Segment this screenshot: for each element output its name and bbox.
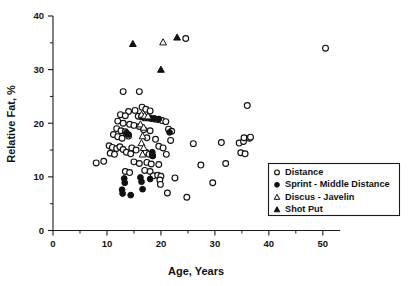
data-point (210, 180, 216, 186)
data-point (198, 162, 204, 168)
data-point (156, 162, 162, 168)
data-point (132, 107, 138, 113)
series-shot-put (129, 34, 180, 72)
x-axis-ticks (53, 231, 323, 236)
data-point (184, 194, 190, 200)
data-point (160, 145, 166, 151)
data-point (164, 190, 170, 196)
data-point (93, 160, 99, 166)
data-point (147, 176, 153, 182)
data-point (140, 186, 146, 192)
data-point (128, 151, 134, 157)
data-point (158, 66, 165, 72)
x-tick-label: 20 (156, 238, 167, 249)
scatter-plot-figure: 010203040 01020304050 Age, Years Relativ… (0, 0, 408, 286)
data-point (218, 140, 224, 146)
y-axis-tick-labels: 010203040 (33, 10, 44, 236)
data-point (136, 161, 142, 167)
data-point (244, 103, 250, 109)
data-point (153, 136, 159, 142)
legend-marker-filled-circle-icon (275, 182, 280, 187)
data-point (128, 192, 134, 198)
legend-label: Sprint - Middle Distance (285, 179, 390, 189)
legend-label: Shot Put (285, 204, 323, 214)
data-point (139, 179, 145, 185)
x-tick-label: 50 (318, 238, 329, 249)
y-tick-label: 20 (33, 118, 44, 129)
legend-label: Distance (285, 167, 323, 177)
data-point (120, 89, 126, 95)
data-point (223, 161, 229, 167)
data-point (136, 89, 142, 95)
data-point (163, 119, 169, 125)
x-tick-label: 0 (50, 238, 55, 249)
data-point (142, 168, 148, 174)
y-axis: 010203040 (33, 10, 53, 236)
data-point (163, 151, 169, 157)
y-axis-ticks (48, 16, 53, 231)
y-axis-label: Relative Fat, % (5, 85, 17, 163)
legend: DistanceSprint - Middle DistanceDiscus -… (269, 164, 400, 216)
data-point (167, 129, 173, 135)
data-point (323, 45, 329, 51)
data-point (133, 147, 139, 153)
data-point (174, 34, 181, 40)
data-point (101, 158, 107, 164)
data-point (122, 113, 128, 119)
data-point (126, 132, 132, 138)
data-point (147, 128, 153, 134)
y-tick-label: 40 (33, 10, 44, 21)
data-point (120, 120, 126, 126)
data-point (127, 170, 133, 176)
data-point (148, 161, 154, 167)
data-point (122, 180, 128, 186)
data-point (150, 153, 156, 159)
y-tick-label: 0 (39, 225, 44, 236)
data-point (160, 39, 167, 45)
data-point (156, 116, 162, 122)
legend-item: Sprint - Middle Distance (275, 179, 390, 189)
legend-item: Discus - Javelin (274, 192, 355, 202)
data-point (129, 40, 136, 46)
data-point (120, 191, 126, 197)
data-point (190, 141, 196, 147)
x-axis: 01020304050 (50, 231, 340, 250)
series-discus-javelin (137, 39, 166, 157)
y-tick-label: 30 (33, 64, 44, 75)
data-point (172, 175, 178, 181)
data-point (112, 151, 118, 157)
x-tick-label: 10 (102, 238, 113, 249)
legend-marker-open-circle-icon (275, 170, 280, 175)
x-axis-label: Age, Years (168, 265, 224, 277)
x-axis-tick-labels: 01020304050 (50, 238, 328, 249)
data-point (131, 122, 137, 128)
x-tick-label: 40 (264, 238, 275, 249)
data-point (183, 36, 189, 42)
legend-label: Discus - Javelin (285, 192, 355, 202)
x-tick-label: 30 (210, 238, 221, 249)
data-point (242, 151, 248, 157)
data-point (157, 181, 163, 187)
y-tick-label: 10 (33, 171, 44, 182)
data-point (248, 134, 254, 140)
data-point (168, 138, 174, 144)
data-point (119, 135, 125, 141)
